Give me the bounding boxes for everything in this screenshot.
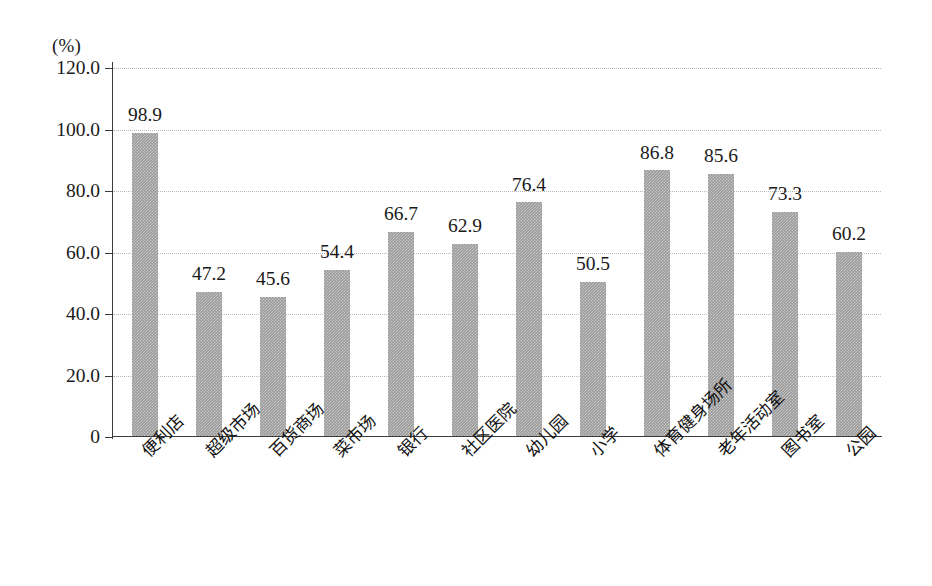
bar-value-label: 98.9	[128, 105, 162, 125]
bar[interactable]	[260, 297, 286, 437]
bar-slot: 47.2	[177, 68, 241, 437]
y-axis-tick-mark	[105, 437, 113, 438]
bar-value-label: 50.5	[576, 254, 610, 274]
bar[interactable]	[836, 252, 862, 437]
plot-area: 98.947.245.654.466.762.976.450.586.885.6…	[113, 68, 881, 437]
bar[interactable]	[388, 232, 414, 437]
y-axis-tick-mark	[105, 191, 113, 192]
y-axis-tick-mark	[105, 68, 113, 69]
y-axis-tick-mark	[105, 253, 113, 254]
bar-slot: 54.4	[305, 68, 369, 437]
bar-value-label: 54.4	[320, 242, 354, 262]
bar-value-label: 66.7	[384, 204, 418, 224]
y-axis-tick-label: 100.0	[0, 120, 100, 140]
bar-value-label: 85.6	[704, 146, 738, 166]
bar[interactable]	[580, 282, 606, 437]
bar[interactable]	[452, 244, 478, 437]
bar-slot: 66.7	[369, 68, 433, 437]
y-axis-tick-label: 60.0	[0, 243, 100, 263]
bar-slot: 50.5	[561, 68, 625, 437]
y-axis-tick-labels: 020.040.060.080.0100.0120.0	[0, 0, 100, 586]
y-axis-tick-label: 0	[0, 427, 100, 447]
bar-slot: 60.2	[817, 68, 881, 437]
y-axis-tick-mark	[105, 130, 113, 131]
bar-slot: 62.9	[433, 68, 497, 437]
y-axis-tick-mark	[105, 376, 113, 377]
bar-value-label: 73.3	[768, 184, 802, 204]
y-axis-tick-label: 20.0	[0, 366, 100, 386]
y-axis-tick-label: 80.0	[0, 181, 100, 201]
bar-chart: (%) 020.040.060.080.0100.0120.0 98.947.2…	[0, 0, 932, 586]
bar-slot: 98.9	[113, 68, 177, 437]
bar-slot: 86.8	[625, 68, 689, 437]
bar[interactable]	[132, 133, 158, 437]
bar[interactable]	[644, 170, 670, 437]
bar-slot: 73.3	[753, 68, 817, 437]
bar[interactable]	[196, 292, 222, 437]
bar-value-label: 45.6	[256, 269, 290, 289]
y-axis-tick-mark	[105, 314, 113, 315]
y-axis-tick-label: 120.0	[0, 58, 100, 78]
bar-value-label: 76.4	[512, 175, 546, 195]
bar-value-label: 47.2	[192, 264, 226, 284]
bar-slot: 76.4	[497, 68, 561, 437]
y-axis-tick-label: 40.0	[0, 304, 100, 324]
bar[interactable]	[516, 202, 542, 437]
bar-value-label: 62.9	[448, 216, 482, 236]
bar-value-label: 86.8	[640, 143, 674, 163]
bar-slot: 45.6	[241, 68, 305, 437]
y-axis-line	[112, 62, 113, 439]
bar-value-label: 60.2	[832, 224, 866, 244]
